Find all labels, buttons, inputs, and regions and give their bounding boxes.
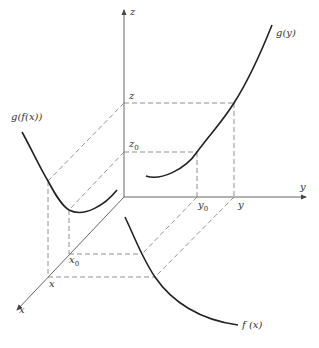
- x0-tick-label: x0: [69, 255, 79, 268]
- y0-tick-label: y0: [198, 200, 208, 213]
- diagram-canvas: [0, 0, 319, 348]
- f-of-x-label: f (x): [242, 320, 262, 330]
- curve-g-of-y: [146, 25, 272, 177]
- z-axis-label: z: [130, 7, 135, 17]
- z0-level-label: z0: [129, 139, 139, 152]
- y-axis-label: y: [300, 182, 306, 192]
- axes: [17, 10, 306, 310]
- g-of-f-of-x-label: g(f(x)): [11, 112, 42, 122]
- g-of-y-label: g(y): [276, 28, 296, 38]
- x-axis-label: x: [19, 305, 25, 315]
- curves: [22, 25, 272, 325]
- curve-f-of-x: [125, 217, 238, 325]
- y-tick-label: y: [238, 200, 244, 210]
- x-tick-label: x: [49, 279, 55, 289]
- z-level-label: z: [129, 91, 134, 101]
- curve-g-of-f-of-x: [22, 132, 117, 212]
